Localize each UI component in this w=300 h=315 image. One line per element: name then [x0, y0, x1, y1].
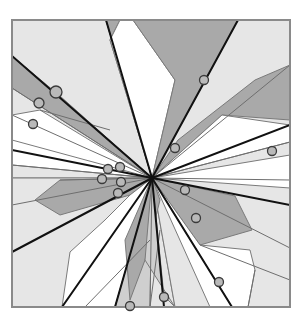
point-marker: [215, 278, 224, 287]
point-marker: [268, 147, 277, 156]
diagram-canvas: [0, 0, 300, 315]
point-marker: [171, 144, 180, 153]
point-marker: [104, 165, 113, 174]
point-marker: [98, 175, 107, 184]
point-marker: [200, 76, 209, 85]
point-marker: [126, 302, 135, 311]
point-marker: [116, 163, 125, 172]
point-marker: [50, 86, 62, 98]
point-marker: [117, 178, 126, 187]
point-marker: [29, 120, 38, 129]
frame-contents: [12, 20, 290, 307]
point-marker: [34, 98, 44, 108]
point-marker: [192, 214, 201, 223]
point-marker: [114, 189, 123, 198]
point-marker: [181, 186, 190, 195]
point-marker: [160, 293, 169, 302]
